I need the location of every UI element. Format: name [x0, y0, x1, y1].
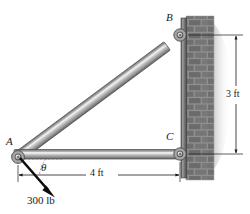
diagram-canvas — [0, 0, 250, 214]
pin-joint-c — [174, 148, 186, 160]
member-ac — [14, 150, 184, 160]
label-dimension-3ft: 3 ft — [226, 89, 240, 99]
label-point-b: B — [166, 12, 173, 23]
label-angle-theta: θ — [41, 162, 46, 173]
pin-joint-b — [174, 29, 186, 41]
label-point-c: C — [166, 131, 173, 142]
label-force-300lb: 300 lb — [27, 195, 55, 206]
label-dimension-4ft: 4 ft — [90, 168, 104, 178]
label-point-a: A — [6, 136, 13, 147]
statics-diagram: A B C θ 3 ft 4 ft 300 lb — [0, 0, 250, 214]
force-vector-300lb — [20, 158, 55, 198]
member-ab — [12, 42, 171, 164]
brick-wall — [186, 16, 214, 180]
